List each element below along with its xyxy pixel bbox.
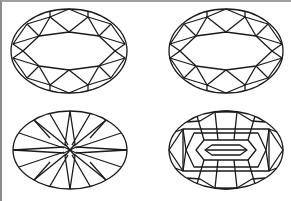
oval-star-pavilion-bottom-left bbox=[13, 111, 127, 189]
oval-step-pavilion-bottom-right bbox=[169, 111, 283, 189]
oval-brilliant-top-left bbox=[11, 9, 127, 93]
gem-diagram-canvas bbox=[0, 0, 291, 201]
oval-brilliant-top-right bbox=[169, 9, 283, 93]
